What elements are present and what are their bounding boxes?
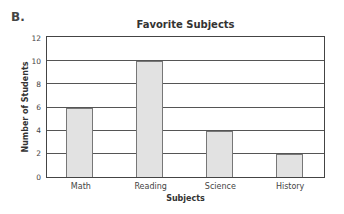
y-tick-label: 0 bbox=[36, 172, 41, 181]
y-tick-label: 4 bbox=[36, 126, 41, 135]
y-tick-label: 12 bbox=[31, 33, 41, 42]
x-tick-label: History bbox=[276, 182, 304, 191]
x-tick-label: Math bbox=[71, 182, 91, 191]
bar-math bbox=[66, 108, 93, 178]
bar-reading bbox=[136, 61, 163, 177]
gridline bbox=[47, 83, 324, 84]
x-tick-label: Science bbox=[205, 182, 236, 191]
chart-title: Favorite Subjects bbox=[46, 19, 325, 30]
y-tick-label: 8 bbox=[36, 79, 41, 88]
bar-science bbox=[206, 131, 233, 177]
figure-label: B. bbox=[11, 10, 25, 24]
y-tick-label: 2 bbox=[36, 149, 41, 158]
x-tick-label: Reading bbox=[134, 182, 166, 191]
y-tick-label: 10 bbox=[31, 56, 41, 65]
y-axis-label: Number of Students bbox=[21, 61, 30, 152]
y-tick-label: 6 bbox=[36, 103, 41, 112]
plot-area bbox=[46, 36, 325, 178]
x-axis-label: Subjects bbox=[46, 194, 325, 203]
bar-history bbox=[276, 154, 303, 177]
gridline bbox=[47, 60, 324, 61]
